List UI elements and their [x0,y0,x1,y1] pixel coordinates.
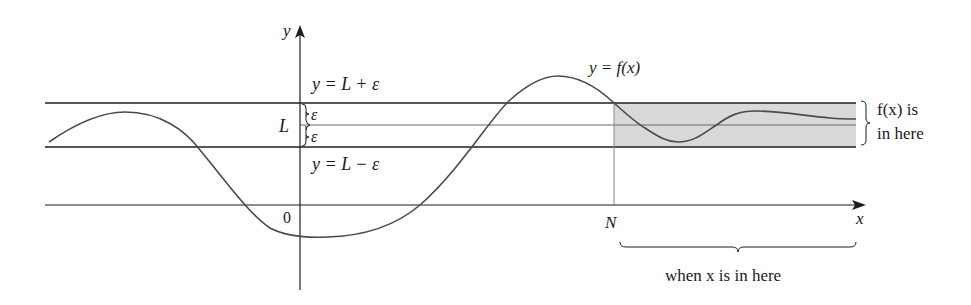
fx-range-line1: f(x) is [877,100,918,119]
epsilon-lower-brace [302,126,306,146]
epsilon-lower-label: ε [311,128,318,145]
x-range-label: when x is in here [665,266,781,285]
upper-bound-label: y = L + ε [310,74,380,94]
origin-label: 0 [283,209,291,226]
curve-label: y = f(x) [587,58,640,77]
lower-bound-label: y = L − ε [310,154,380,174]
x-range-brace [620,242,856,252]
n-label: N [604,213,618,232]
function-curve [49,76,856,237]
x-axis-label: x [855,209,864,228]
epsilon-upper-label: ε [311,106,318,123]
limit-diagram: y x 0 N y = L + ε y = L − ε L ε ε y = f(… [0,0,971,305]
limit-L-label: L [278,116,289,136]
fx-range-brace [861,101,870,145]
y-axis-label: y [281,21,291,40]
fx-range-line2: in here [877,124,924,143]
